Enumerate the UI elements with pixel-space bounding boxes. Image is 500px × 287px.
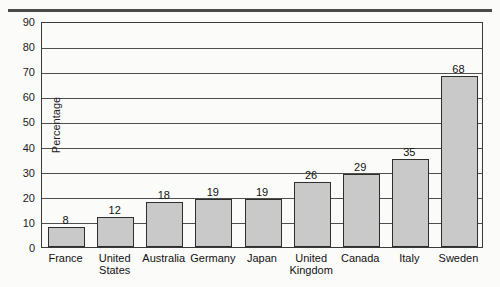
y-axis-title: Percentage [50,65,62,185]
bar-value-united-kingdom: 26 [291,170,331,181]
bar-value-sweden: 68 [438,64,478,75]
bar-value-canada: 29 [340,162,380,173]
bar-united-states [97,217,134,247]
y-tick-label-30: 30 [5,168,35,179]
y-tick-label-90: 90 [5,17,35,28]
bar-australia [146,202,183,247]
bar-sweden [441,76,478,247]
bar-value-france: 8 [46,215,86,226]
bar-value-australia: 18 [144,190,184,201]
y-tick-label-70: 70 [5,67,35,78]
gridline-60 [42,98,482,99]
bar-value-germany: 19 [193,187,233,198]
gridline-70 [42,73,482,74]
bar-value-united-states: 12 [95,205,135,216]
y-tick-label-50: 50 [5,117,35,128]
bar-united-kingdom [294,182,331,247]
bar-canada [343,174,380,247]
y-tick-label-0: 0 [5,243,35,254]
bar-value-italy: 35 [389,147,429,158]
bar-france [48,227,85,247]
y-tick-label-80: 80 [5,42,35,53]
gridline-80 [42,48,482,49]
y-tick-label-10: 10 [5,218,35,229]
bar-germany [195,199,232,247]
category-label-sweden: Sweden [428,252,488,264]
bar-japan [245,199,282,247]
page-top-rule [8,9,492,12]
y-tick-label-60: 60 [5,92,35,103]
bar-value-japan: 19 [242,187,282,198]
y-tick-label-40: 40 [5,143,35,154]
bar-italy [392,159,429,247]
gridline-50 [42,123,482,124]
chart-page: 0102030405060708090 Percentage 812181919… [0,0,500,287]
y-tick-label-20: 20 [5,193,35,204]
